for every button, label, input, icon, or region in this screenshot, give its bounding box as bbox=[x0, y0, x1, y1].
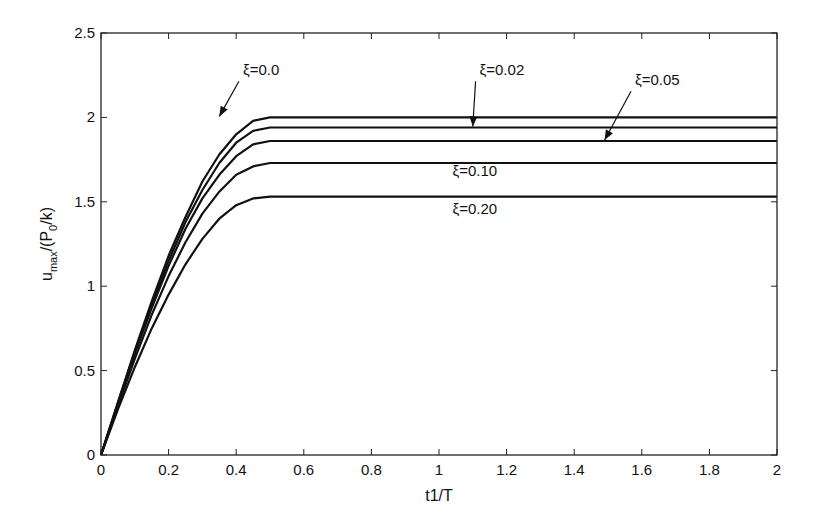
x-tick-label: 0.8 bbox=[361, 461, 382, 478]
x-tick-label: 1 bbox=[435, 461, 443, 478]
series-annotation: ξ=0.02 bbox=[480, 61, 525, 78]
x-tick-label: 0 bbox=[97, 461, 105, 478]
y-axis-label: umax/(P0/k) bbox=[38, 207, 59, 281]
chart-series bbox=[101, 117, 777, 455]
series-annotation: ξ=0.0 bbox=[243, 61, 279, 78]
arrowhead-icon bbox=[605, 129, 613, 140]
arrowhead-icon bbox=[469, 116, 477, 126]
x-tick-label: 0.4 bbox=[226, 461, 247, 478]
x-tick-label: 1.2 bbox=[496, 461, 517, 478]
y-tick-label: 1 bbox=[87, 277, 95, 294]
x-tick-label: 0.6 bbox=[293, 461, 314, 478]
series-line bbox=[101, 163, 777, 455]
series-line bbox=[101, 128, 777, 456]
x-tick-label: 1.6 bbox=[631, 461, 652, 478]
y-tick-label: 2.5 bbox=[74, 24, 95, 41]
y-tick-label: 0 bbox=[87, 446, 95, 463]
series-annotation: ξ=0.20 bbox=[453, 200, 498, 217]
x-axis-label: t1/T bbox=[425, 487, 453, 504]
y-tick-label: 2 bbox=[87, 108, 95, 125]
x-tick-label: 0.2 bbox=[158, 461, 179, 478]
series-annotation: ξ=0.05 bbox=[635, 71, 680, 88]
arrowhead-icon bbox=[219, 106, 227, 117]
y-tick-label: 0.5 bbox=[74, 362, 95, 379]
series-annotation: ξ=0.10 bbox=[453, 162, 498, 179]
series-line bbox=[101, 197, 777, 455]
line-chart: 00.20.40.60.811.21.41.61.8200.511.522.5 … bbox=[0, 0, 813, 527]
y-tick-label: 1.5 bbox=[74, 193, 95, 210]
x-tick-label: 1.4 bbox=[564, 461, 585, 478]
x-tick-label: 2 bbox=[773, 461, 781, 478]
x-tick-label: 1.8 bbox=[699, 461, 720, 478]
svg-text:umax/(P0/k): umax/(P0/k) bbox=[38, 207, 59, 281]
plot-frame bbox=[101, 33, 777, 455]
chart-annotations: ξ=0.0ξ=0.02ξ=0.05ξ=0.10ξ=0.20 bbox=[219, 61, 679, 216]
series-line bbox=[101, 117, 777, 455]
